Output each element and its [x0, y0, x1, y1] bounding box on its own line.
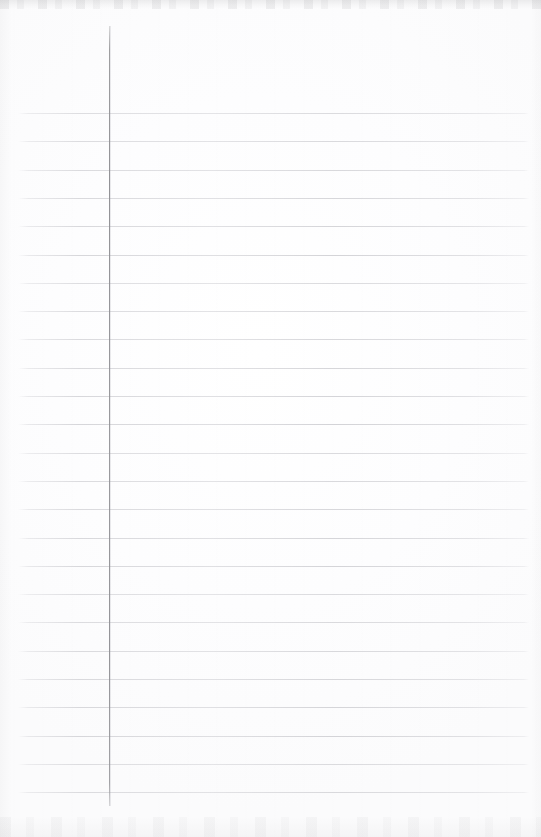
notebook-page: [0, 0, 541, 837]
margin-rule-line: [109, 26, 110, 806]
page-content-text: [115, 91, 525, 799]
